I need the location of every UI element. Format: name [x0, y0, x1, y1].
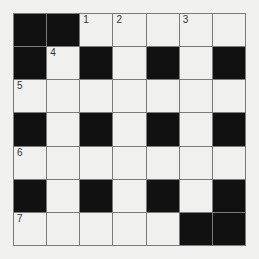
crossword-cell[interactable]	[113, 147, 145, 179]
crossword-cell[interactable]	[213, 147, 245, 179]
clue-number: 2	[116, 15, 122, 25]
crossword-cell[interactable]	[180, 47, 212, 79]
black-cell	[80, 47, 112, 79]
black-cell	[180, 213, 212, 245]
clue-number: 6	[17, 148, 23, 158]
crossword-cell[interactable]	[213, 14, 245, 46]
crossword-grid: 1234567	[13, 13, 246, 246]
crossword-cell[interactable]	[47, 80, 79, 112]
black-cell	[213, 113, 245, 145]
clue-number: 1	[83, 15, 89, 25]
crossword-cell[interactable]	[180, 113, 212, 145]
crossword-cell[interactable]: 1	[80, 14, 112, 46]
crossword-cell[interactable]	[47, 213, 79, 245]
crossword-cell[interactable]	[80, 147, 112, 179]
crossword-cell[interactable]	[180, 147, 212, 179]
black-cell	[14, 47, 46, 79]
clue-number: 7	[17, 214, 23, 224]
crossword-cell[interactable]	[147, 147, 179, 179]
black-cell	[213, 47, 245, 79]
black-cell	[147, 47, 179, 79]
crossword-cell[interactable]	[113, 213, 145, 245]
crossword-cell[interactable]	[147, 14, 179, 46]
black-cell	[213, 180, 245, 212]
black-cell	[47, 14, 79, 46]
crossword-cell[interactable]	[213, 80, 245, 112]
crossword-cell[interactable]	[113, 180, 145, 212]
crossword-cell[interactable]	[113, 113, 145, 145]
clue-number: 3	[183, 15, 189, 25]
crossword-cell[interactable]	[180, 80, 212, 112]
crossword-cell[interactable]	[180, 180, 212, 212]
crossword-cell[interactable]	[80, 213, 112, 245]
crossword-cell[interactable]: 7	[14, 213, 46, 245]
black-cell	[147, 113, 179, 145]
crossword-cell[interactable]: 3	[180, 14, 212, 46]
black-cell	[80, 113, 112, 145]
crossword-cell[interactable]	[113, 47, 145, 79]
crossword-cell[interactable]: 4	[47, 47, 79, 79]
crossword-cell[interactable]: 2	[113, 14, 145, 46]
black-cell	[14, 14, 46, 46]
black-cell	[147, 180, 179, 212]
crossword-cell[interactable]	[47, 180, 79, 212]
crossword-cell[interactable]	[47, 113, 79, 145]
crossword-cell[interactable]: 6	[14, 147, 46, 179]
crossword-cell[interactable]	[113, 80, 145, 112]
black-cell	[14, 180, 46, 212]
crossword-cell[interactable]	[147, 80, 179, 112]
clue-number: 5	[17, 81, 23, 91]
crossword-cell[interactable]	[80, 80, 112, 112]
black-cell	[213, 213, 245, 245]
crossword-cell[interactable]: 5	[14, 80, 46, 112]
crossword-cell[interactable]	[147, 213, 179, 245]
black-cell	[14, 113, 46, 145]
black-cell	[80, 180, 112, 212]
clue-number: 4	[50, 48, 56, 58]
crossword-cell[interactable]	[47, 147, 79, 179]
